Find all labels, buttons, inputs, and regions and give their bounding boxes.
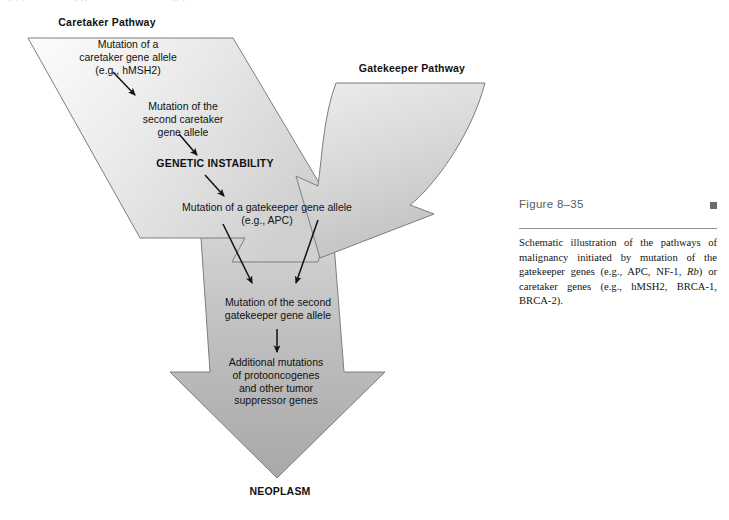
caption-header-row: Figure 8–35 <box>519 198 719 220</box>
caretaker-pathway-label: Caretaker Pathway <box>32 16 182 29</box>
figure-caption-block: Figure 8–35 Schematic illustration of th… <box>519 198 719 309</box>
square-marker-icon <box>710 202 717 209</box>
caption-part-italic: Rb <box>687 266 699 277</box>
step-label-caretaker-first-allele: Mutation of a caretaker gene allele (e.g… <box>52 38 204 76</box>
step-label-caretaker-second-allele: Mutation of the second caretaker gene al… <box>118 100 248 138</box>
figure-number: Figure 8–35 <box>519 198 584 210</box>
figure-8-35: · · · · ·· ·· · <box>0 0 729 520</box>
gatekeeper-pathway-label: Gatekeeper Pathway <box>336 62 488 75</box>
step-label-gatekeeper-second-allele: Mutation of the second gatekeeper gene a… <box>192 296 364 322</box>
step-label-additional-mutations: Additional mutations of protooncogenes a… <box>196 356 356 407</box>
step-label-genetic-instability: GENETIC INSTABILITY <box>135 157 295 170</box>
outcome-label-neoplasm: NEOPLASM <box>216 485 344 498</box>
figure-caption-text: Schematic illustration of the pathways o… <box>519 236 717 309</box>
gatekeeper-pathway-arrow <box>296 83 485 258</box>
step-label-gatekeeper-first-allele: Mutation of a gatekeeper gene allele (e.… <box>152 201 382 227</box>
caption-divider <box>519 228 717 229</box>
